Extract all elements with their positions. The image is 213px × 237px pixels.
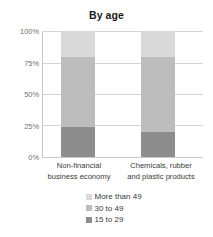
legend-item-more-than-49[interactable]: More than 49 — [86, 191, 142, 203]
segment-more-than-49 — [141, 31, 175, 57]
chart-legend: More than 49 30 to 49 15 to 29 — [0, 191, 213, 226]
legend-item-30-to-49[interactable]: 30 to 49 — [86, 203, 123, 215]
legend-swatch-icon — [86, 194, 92, 200]
chart-container: By age 100% 75% 50% 25% 0% — [0, 0, 213, 237]
legend-swatch-icon — [86, 217, 92, 223]
legend-item-15-to-29[interactable]: 15 to 29 — [86, 214, 123, 226]
segment-15-to-29 — [141, 132, 175, 157]
y-axis-tick-labels: 100% 75% 50% 25% 0% — [0, 31, 39, 157]
x-axis-category-labels: Non-financial business economy Chemicals… — [42, 160, 202, 190]
segment-30-to-49 — [141, 57, 175, 131]
bars-layer — [42, 31, 202, 157]
segment-more-than-49 — [61, 31, 95, 57]
category-label-chemicals-rubber-and-plastic-products: Chemicals, rubber and plastic products — [116, 160, 206, 182]
segment-30-to-49 — [61, 57, 95, 126]
category-label-line-2: business economy — [36, 171, 122, 182]
category-label-line-1: Chemicals, rubber — [116, 160, 206, 171]
legend-label: 15 to 29 — [95, 215, 124, 224]
legend-swatch-icon — [86, 205, 92, 211]
category-label-non-financial-business-economy: Non-financial business economy — [36, 160, 122, 182]
y-tick-0: 0% — [3, 153, 39, 162]
bar-stack — [141, 31, 175, 157]
bar-stack — [61, 31, 95, 157]
legend-label: 30 to 49 — [95, 204, 124, 213]
gridline-0-baseline — [43, 157, 203, 158]
category-label-line-1: Non-financial — [36, 160, 122, 171]
y-tick-100: 100% — [3, 27, 39, 36]
segment-15-to-29 — [61, 127, 95, 157]
category-label-line-2: and plastic products — [116, 171, 206, 182]
bar-group-chemicals-rubber-and-plastic-products[interactable] — [141, 31, 175, 157]
legend-label: More than 49 — [95, 192, 142, 201]
y-tick-50: 50% — [3, 90, 39, 99]
chart-title: By age — [0, 9, 213, 21]
y-tick-75: 75% — [3, 58, 39, 67]
bar-group-non-financial-business-economy[interactable] — [61, 31, 95, 157]
y-tick-25: 25% — [3, 121, 39, 130]
